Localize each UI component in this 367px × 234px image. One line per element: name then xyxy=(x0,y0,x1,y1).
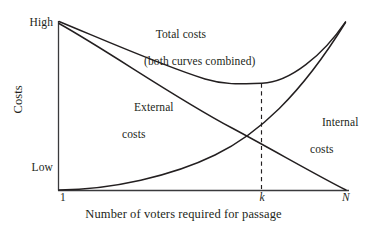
total-costs-annotation-line1: Total costs xyxy=(156,28,206,40)
internal-costs-annotation-line1: Internal xyxy=(322,116,359,128)
x-tick-label-N: N xyxy=(335,191,357,205)
y-tick-label-high: High xyxy=(8,16,53,30)
y-axis-title: Costs xyxy=(11,64,26,134)
internal-costs-annotation: Internal costs xyxy=(310,102,358,183)
internal-costs-annotation-line2: costs xyxy=(310,143,358,157)
x-tick-label-1: 1 xyxy=(52,191,74,205)
total-costs-annotation-line2: (both curves combined) xyxy=(144,55,255,69)
y-tick-label-low: Low xyxy=(8,161,53,175)
external-costs-annotation-line1: External xyxy=(134,101,174,113)
total-costs-annotation: Total costs (both curves combined) xyxy=(144,14,255,95)
external-costs-annotation-line2: costs xyxy=(122,128,174,142)
x-tick-label-k: k xyxy=(251,191,273,205)
x-axis-title: Number of voters required for passage xyxy=(0,207,367,222)
cost-curve-figure: Number of voters required for passage Co… xyxy=(0,0,367,234)
external-costs-annotation: External costs xyxy=(122,87,174,168)
